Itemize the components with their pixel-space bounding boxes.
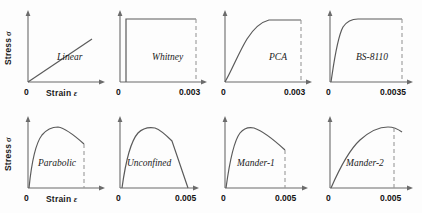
x-axis-arrow xyxy=(302,186,308,191)
panel-bs8110: 0 0.0035 BS-8110 xyxy=(318,0,422,107)
curve-label-mander2: Mander-2 xyxy=(346,158,384,168)
x-axis-arrow xyxy=(407,186,413,191)
curve-bs8110 xyxy=(331,19,402,82)
tick-origin: 0 xyxy=(24,193,29,203)
tick-max: 0.005 xyxy=(380,193,401,203)
y-axis-label: Stress σ xyxy=(1,10,15,86)
tick-origin: 0 xyxy=(24,87,29,97)
y-axis-arrow xyxy=(26,116,31,122)
x-axis-arrow xyxy=(99,186,105,191)
tick-origin: 0 xyxy=(326,193,331,203)
tick-origin: 0 xyxy=(221,193,226,203)
epsilon-symbol: ε xyxy=(74,88,78,98)
panel-parabolic: Stress σ Strain ε 0 Parabolic xyxy=(0,106,108,213)
tick-origin: 0 xyxy=(221,87,226,97)
y-axis-arrow xyxy=(118,10,123,16)
y-axis-arrow xyxy=(223,10,228,16)
panel-mander2: 0 0.005 Mander-2 xyxy=(318,106,422,213)
curve-label-bs8110: BS-8110 xyxy=(356,52,388,62)
sigma-symbol: σ xyxy=(3,31,13,36)
tick-max: 0.005 xyxy=(275,193,296,203)
stress-strain-figure: Stress σ Strain ε 0 Linear 0 0.003 Whitn… xyxy=(0,0,422,213)
curve-pca xyxy=(225,20,301,82)
panel-pca: 0 0.003 PCA xyxy=(213,0,318,107)
curve-whitney xyxy=(126,19,196,82)
x-axis-arrow xyxy=(193,186,199,191)
panel-row-top: Stress σ Strain ε 0 Linear 0 0.003 Whitn… xyxy=(0,0,422,107)
panel-mander1: 0 0.005 Mander-1 xyxy=(213,106,318,213)
y-axis-arrow xyxy=(26,10,31,16)
curve-label-unconfined: Unconfined xyxy=(127,158,171,168)
y-axis-arrow xyxy=(118,116,123,122)
tick-origin: 0 xyxy=(326,87,331,97)
panel-linear: Stress σ Strain ε 0 Linear xyxy=(0,0,108,107)
panel-unconfined: 0 0.005 Unconfined xyxy=(108,106,213,213)
tick-max: 0.005 xyxy=(175,193,196,203)
x-axis-arrow xyxy=(201,80,207,85)
y-axis-arrow xyxy=(328,10,333,16)
y-axis-arrow xyxy=(223,116,228,122)
curve-label-whitney: Whitney xyxy=(152,52,183,62)
x-axis-arrow xyxy=(306,80,312,85)
curve-label-parabolic: Parabolic xyxy=(38,158,76,168)
sigma-symbol: σ xyxy=(3,137,13,142)
panel-row-bottom: Stress σ Strain ε 0 Parabolic 0 0.005 Un… xyxy=(0,106,422,213)
tick-origin: 0 xyxy=(116,87,121,97)
x-axis-arrow xyxy=(99,80,105,85)
tick-max: 0.003 xyxy=(179,87,200,97)
x-axis-label: Strain ε xyxy=(46,194,78,204)
curve-label-pca: PCA xyxy=(269,52,287,62)
epsilon-symbol: ε xyxy=(74,194,78,204)
tick-max: 0.0035 xyxy=(380,87,406,97)
tick-max: 0.003 xyxy=(284,87,305,97)
x-axis-label: Strain ε xyxy=(46,88,78,98)
y-axis-label: Stress σ xyxy=(1,116,15,192)
curve-label-mander1: Mander-1 xyxy=(237,158,275,168)
y-axis-arrow xyxy=(328,116,333,122)
x-axis-arrow xyxy=(407,80,413,85)
curve-label-linear: Linear xyxy=(57,52,82,62)
tick-origin: 0 xyxy=(116,193,121,203)
panel-whitney: 0 0.003 Whitney xyxy=(108,0,213,107)
